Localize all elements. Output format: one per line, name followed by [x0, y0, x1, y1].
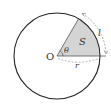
arc-length-label: l [98, 28, 101, 38]
area-label: S [79, 36, 86, 47]
center-label: O [46, 51, 54, 62]
angle-label: θ [64, 46, 69, 55]
sector-diagram: O θ S l r [0, 0, 111, 112]
